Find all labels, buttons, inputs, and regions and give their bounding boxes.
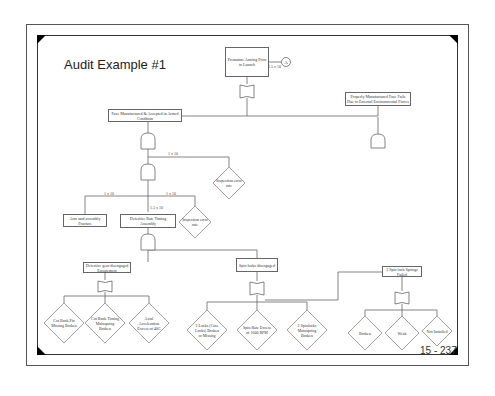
basic-event-not-installed: Not Installed [426,324,448,338]
basic-event-weak: Weak [390,328,414,338]
inspection-probability-1: 1 x 10 [168,151,178,156]
arm-stud-probability: 1 x 10 [104,191,114,196]
inspection-probability-2: 1 x 10 [166,191,176,196]
basic-event-spinlocks-mainspring: 2 Spinlocks Mainspring Broken [293,320,321,340]
spring-failed-box: 2 Spin lock Springs Failed [382,266,422,277]
basic-event-mainspring: Cot Bank Timing Mainspring Broken [91,313,119,333]
timing-assembly-probability: 1.5 x 10 [150,205,163,210]
defective-timing-box: Defective Rate Timing Assembly [120,214,176,228]
top-event-box: Premature Arming Prior to Launch [225,47,269,77]
spin-locks-box: Spin locks disengaged [236,258,278,272]
top-event-probability: 1.5 x 10 [268,64,281,69]
inspection-error-diamond-1: Inspection error rate [216,176,242,190]
inspection-error-diamond-2: Inspection error rate [182,215,208,229]
basic-event-broken: Broken [353,328,377,338]
basic-event-axial-acceleration: Axial Acceleration Excess of 40G [135,313,163,333]
arm-stud-fracture-box: Arm stud assembly Fracture [63,214,107,227]
basic-event-case-locks: 2 Locks (Case Locks) Broken or Missing [193,320,221,340]
basic-event-pin-missing: Cot Bank Pin Missing Broken [50,313,78,333]
fuze-armed-condition-box: Fuze Manufactured & Accepted in Armed Co… [108,109,182,122]
gear-escapement-box: Defective gear disengaged Escapement [83,262,131,273]
external-forces-box: Properly Manufactured Fuze Fails Due to … [345,92,411,106]
basic-event-spin-rate: Spin Rate Excess of 1600 RPM [243,320,271,340]
